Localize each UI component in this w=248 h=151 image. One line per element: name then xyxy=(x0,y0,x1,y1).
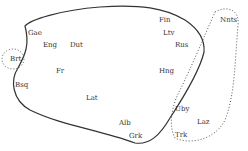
label-dut: Dut xyxy=(70,42,83,49)
label-trk: Trk xyxy=(175,132,187,139)
label-uby: Uby xyxy=(175,106,189,113)
label-bsq: Bsq xyxy=(15,82,28,89)
label-ltv: Ltv xyxy=(163,30,174,37)
label-rus: Rus xyxy=(175,42,188,49)
label-lat: Lat xyxy=(86,95,98,102)
region-outlines xyxy=(0,0,248,151)
label-laz: Laz xyxy=(197,119,210,126)
main-region-outline xyxy=(14,6,205,143)
language-diagram: Gae Eng Dut Fin Ltv Rus Fr Hng Bsq Lat A… xyxy=(0,0,248,151)
label-hng: Hng xyxy=(159,68,174,75)
label-fr: Fr xyxy=(56,68,64,75)
label-alb: Alb xyxy=(119,120,131,127)
label-fin: Fin xyxy=(159,17,171,24)
label-brt: Brt xyxy=(10,56,21,63)
label-gae: Gae xyxy=(28,30,42,37)
label-grk: Grk xyxy=(129,133,142,140)
label-eng: Eng xyxy=(43,42,57,49)
label-nnts: Nnts xyxy=(220,17,237,24)
